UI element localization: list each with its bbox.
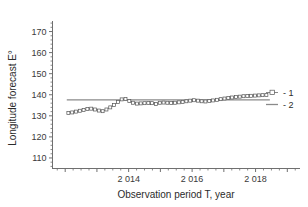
data-point-marker [113, 103, 116, 106]
chart-figure: 110120130140150160170 2 0142 0162 018 Lo… [0, 0, 308, 207]
data-point-marker [132, 101, 135, 104]
y-axis-title: Longitude forecast E° [7, 50, 18, 146]
data-point-marker [200, 100, 203, 103]
data-point-marker [234, 96, 237, 99]
data-point-marker [139, 102, 142, 105]
data-point-marker [250, 94, 253, 97]
data-point-marker [147, 101, 150, 104]
data-point-marker [166, 101, 169, 104]
data-point-marker [212, 99, 215, 102]
data-point-marker [162, 101, 165, 104]
data-point-marker [158, 101, 161, 104]
legend-label-series-1: - 1 [283, 88, 294, 98]
data-point-marker [238, 95, 241, 98]
data-point-marker [116, 100, 119, 103]
data-point-marker [151, 102, 154, 105]
data-point-marker [193, 99, 196, 102]
data-point-marker [78, 109, 81, 112]
legend-label-series-2: - 2 [283, 100, 294, 110]
data-point-marker [154, 103, 157, 106]
x-axis-ticklabels: 2 0142 0162 018 [117, 174, 266, 184]
data-point-marker [181, 100, 184, 103]
x-ticklabel: 2 014 [117, 174, 140, 184]
y-ticklabel: 130 [31, 111, 46, 121]
data-point-marker [196, 99, 199, 102]
data-point-marker [208, 100, 211, 103]
x-ticklabel: 2 018 [244, 174, 267, 184]
data-point-marker [124, 97, 127, 100]
data-point-marker [257, 94, 260, 97]
data-point-marker [94, 108, 97, 111]
data-point-marker [82, 108, 85, 111]
data-point-marker [128, 100, 131, 103]
y-ticklabel: 110 [32, 153, 46, 163]
data-point-marker [265, 93, 268, 96]
data-point-marker [185, 100, 188, 103]
data-point-marker [189, 99, 192, 102]
data-point-marker [135, 102, 138, 105]
data-point-marker [105, 108, 108, 111]
data-point-marker [204, 100, 207, 103]
data-point-marker [227, 96, 230, 99]
legend-marker-series-1 [270, 90, 274, 94]
data-point-marker [170, 101, 173, 104]
data-point-marker [231, 96, 234, 99]
data-point-marker [86, 108, 89, 111]
y-ticklabel: 120 [31, 132, 46, 142]
data-point-marker [101, 110, 104, 113]
data-point-marker [215, 98, 218, 101]
data-point-marker [242, 95, 245, 98]
data-point-marker [246, 95, 249, 98]
chart-svg: 110120130140150160170 2 0142 0162 018 Lo… [0, 0, 308, 207]
data-point-marker [219, 98, 222, 101]
y-ticklabel: 170 [31, 27, 46, 37]
data-point-marker [90, 107, 93, 110]
data-point-marker [74, 110, 77, 113]
data-point-marker [143, 102, 146, 105]
data-point-marker [120, 98, 123, 101]
data-point-marker [223, 97, 226, 100]
data-point-marker [261, 94, 264, 97]
x-axis-title: Observation period T, year [117, 189, 235, 200]
data-point-marker [67, 111, 70, 114]
x-ticklabel: 2 016 [181, 174, 204, 184]
y-ticklabel: 160 [31, 48, 46, 58]
y-ticklabel: 150 [31, 69, 46, 79]
y-ticklabel: 140 [31, 90, 46, 100]
data-point-marker [253, 94, 256, 97]
data-point-marker [97, 109, 100, 112]
data-point-marker [109, 106, 112, 109]
data-point-marker [173, 101, 176, 104]
data-point-marker [71, 111, 74, 114]
data-point-marker [177, 101, 180, 104]
